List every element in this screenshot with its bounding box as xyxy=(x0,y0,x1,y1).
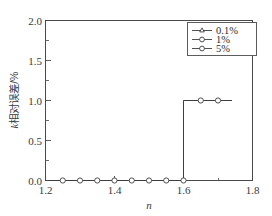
x-tick-label: 1.8 xyxy=(246,184,260,196)
data-point xyxy=(181,178,186,183)
data-point xyxy=(60,178,65,183)
y-axis-title-rest: 相对误差/% xyxy=(8,72,20,124)
y-tick-label: 1.5 xyxy=(28,55,42,67)
svg-text:k相对误差/%: k相对误差/% xyxy=(8,72,20,129)
circle-icon xyxy=(200,46,205,51)
y-tick-label: 2.0 xyxy=(28,15,42,27)
x-tick-label: 1.6 xyxy=(177,184,191,196)
x-axis-title: n xyxy=(146,199,152,211)
data-point xyxy=(198,98,203,103)
x-tick-label: 1.4 xyxy=(108,184,122,196)
relative-error-step-chart: 0.0 0.5 1.0 1.5 2.0 1.2 1.4 1.6 1.8 n xyxy=(0,0,272,216)
x-tick-label: 1.2 xyxy=(39,184,53,196)
circle-icon xyxy=(200,37,205,42)
y-axis-title: k相对误差/% xyxy=(8,72,20,129)
series-line-step xyxy=(48,101,232,181)
y-tick-label: 0.5 xyxy=(28,135,42,147)
data-point xyxy=(77,178,82,183)
legend-label-2: 5% xyxy=(216,43,230,54)
legend: 0.1% 1% 5% xyxy=(188,23,257,56)
data-point xyxy=(129,178,134,183)
x-tick-labels: 1.2 1.4 1.6 1.8 xyxy=(39,184,260,196)
data-point xyxy=(164,178,169,183)
y-tick-label: 1.0 xyxy=(28,95,42,107)
data-point xyxy=(112,178,117,183)
y-tick-labels: 0.0 0.5 1.0 1.5 2.0 xyxy=(28,15,42,187)
data-point xyxy=(146,178,151,183)
chart-container: 0.0 0.5 1.0 1.5 2.0 1.2 1.4 1.6 1.8 n xyxy=(0,0,272,216)
y-axis-ticks xyxy=(46,21,51,181)
data-point xyxy=(95,178,100,183)
data-point xyxy=(215,98,220,103)
